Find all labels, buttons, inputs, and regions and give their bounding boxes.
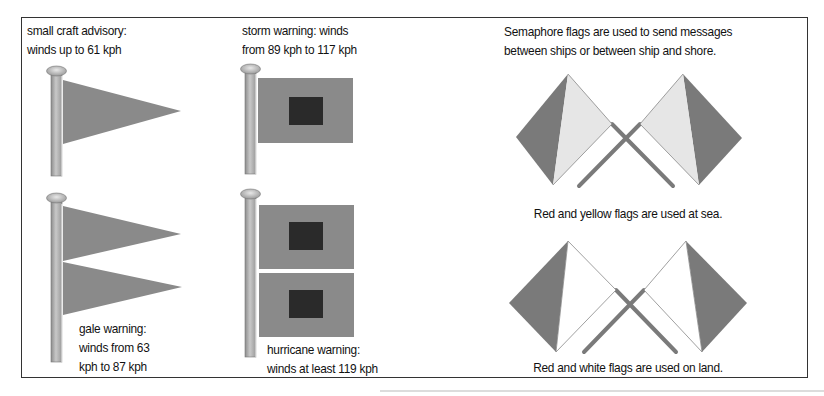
- semaphore-intro: Semaphore flags are used to send message…: [504, 22, 732, 60]
- small-craft-wind: winds up to 61 kph: [27, 40, 126, 59]
- hurricane-title: hurricane warning:: [267, 340, 378, 359]
- hurricane-label: hurricane warning: winds at least 119 kp…: [267, 340, 378, 378]
- land-caption: Red and white flags are used on land.: [515, 358, 740, 377]
- semaphore-intro-line-1: Semaphore flags are used to send message…: [504, 22, 732, 41]
- hurricane-wind: winds at least 119 kph: [267, 359, 378, 378]
- gale-label: gale warning: winds from 63 kph to 87 kp…: [79, 319, 150, 376]
- storm-flag-icon: [241, 64, 354, 174]
- gale-wind-2: kph to 87 kph: [79, 357, 150, 376]
- sea-caption: Red and yellow flags are used at sea.: [515, 204, 740, 223]
- gale-title: gale warning:: [79, 319, 150, 338]
- storm-wind: from 89 kph to 117 kph: [242, 40, 357, 59]
- small-craft-title: small craft advisory:: [27, 21, 126, 40]
- small-craft-flag-icon: [47, 66, 182, 176]
- small-craft-label: small craft advisory: winds up to 61 kph: [27, 21, 126, 59]
- semaphore-intro-line-2: between ships or between ship and shore.: [504, 41, 732, 60]
- gale-wind-1: winds from 63: [79, 338, 150, 357]
- semaphore-land-flags-icon: [509, 241, 747, 352]
- hurricane-flag-icon: [241, 189, 355, 357]
- storm-label: storm warning: winds from 89 kph to 117 …: [242, 21, 357, 59]
- storm-title: storm warning: winds: [242, 21, 357, 40]
- semaphore-sea-flags-icon: [516, 74, 742, 186]
